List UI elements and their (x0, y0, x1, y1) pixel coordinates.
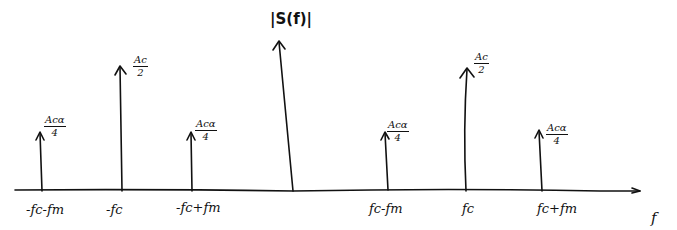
tick-label-neg-fc-minus-fm: -fc-fm (26, 203, 64, 216)
impulse-fc-plus-fm (539, 131, 542, 191)
tick-label-fc-plus-fm: fc+fm (537, 202, 577, 215)
amplitude-label-fc-plus-fm: Acα 4 (546, 123, 568, 146)
impulse-neg-fc-minus-fm (40, 133, 42, 191)
tick-label-neg-fc-plus-fm: -fc+fm (176, 201, 221, 214)
impulse-neg-fc (120, 67, 122, 191)
tick-label-fc-minus-fm: fc-fm (369, 202, 403, 215)
spectrum-drawing (0, 0, 677, 230)
frequency-axis (15, 190, 640, 192)
amplitude-label-fc-minus-fm: Acα 4 (387, 120, 409, 143)
impulse-neg-fc-plus-fm (191, 133, 192, 191)
amplitude-label-neg-fc-plus-fm: Acα 4 (195, 119, 217, 142)
amplitude-label-fc: Ac 2 (474, 52, 489, 75)
tick-label-fc: fc (462, 202, 474, 215)
frequency-axis-label: f (651, 211, 657, 226)
magnitude-axis-label: |S(f)| (270, 12, 312, 27)
tick-label-neg-fc: -fc (106, 203, 123, 216)
impulse-fc (465, 69, 467, 191)
spectrum-diagram: |S(f)| f Acα 4 Ac 2 Acα 4 Acα 4 Ac 2 Acα… (0, 0, 677, 230)
magnitude-axis (279, 42, 293, 191)
amplitude-label-neg-fc: Ac 2 (133, 55, 148, 78)
amplitude-label-neg-fc-minus-fm: Acα 4 (44, 115, 66, 138)
